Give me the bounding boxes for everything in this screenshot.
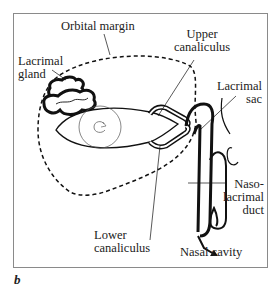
label-lower-canaliculus: Lower canaliculus (94, 229, 150, 255)
label-lacrimal-gland: Lacrimal gland (18, 55, 63, 81)
leader-lower-canaliculus (150, 146, 160, 240)
label-orbital-margin: Orbital margin (61, 20, 135, 33)
label-nasal-cavity: Nasal cavity (180, 246, 242, 259)
label-lacrimal-sac: Lacrimal sac (210, 80, 262, 106)
lacrimal-sac-inner (194, 125, 200, 232)
leader-orbital-margin (104, 34, 110, 55)
panel-letter: b (14, 272, 21, 287)
label-nasolacrimal-duct: Naso- lacrimal duct (220, 178, 264, 217)
label-upper-canaliculus: Upper canaliculus (174, 28, 230, 54)
leader-upper-canaliculus (158, 60, 194, 116)
nasal-wall-curl (227, 148, 238, 165)
